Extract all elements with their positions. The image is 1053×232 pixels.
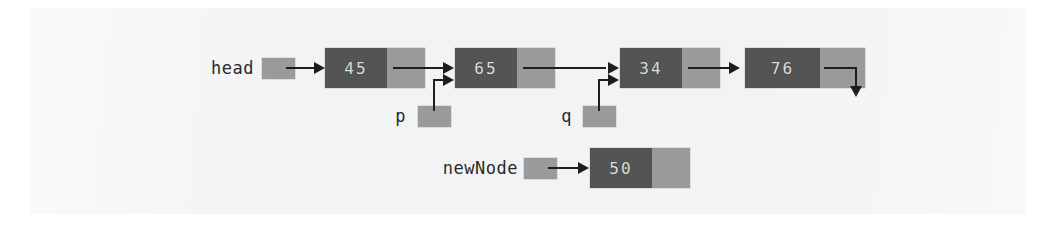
new-node-value: 50: [590, 148, 652, 188]
new-node-label: newNode: [418, 158, 518, 178]
new-node-arrow-line: [548, 167, 582, 169]
new-node-arrow-head: [578, 162, 589, 174]
new-node-box: 50: [590, 148, 690, 188]
new-node-next-cell: [652, 148, 690, 188]
figure-canvas: head 45 65 34 76: [0, 0, 1053, 232]
new-node-row: newNode 50: [0, 0, 1053, 232]
